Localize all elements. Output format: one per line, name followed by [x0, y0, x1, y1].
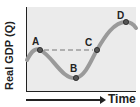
- gdp-curve: [27, 22, 136, 78]
- point-c-label: C: [85, 37, 92, 48]
- point-b-label: B: [70, 63, 77, 74]
- chart-svg: A B C D: [0, 0, 140, 107]
- time-axis-line: [26, 99, 102, 101]
- point-d-label: D: [117, 10, 124, 21]
- arrow-right-icon: [100, 96, 106, 104]
- point-b-marker: [73, 75, 78, 80]
- x-axis-label: Time: [108, 92, 136, 106]
- point-a-marker: [37, 47, 42, 52]
- point-a-label: A: [32, 36, 39, 47]
- point-c-marker: [94, 47, 99, 52]
